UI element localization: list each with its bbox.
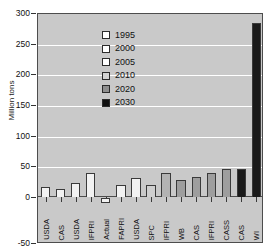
- x-tick-mark: [196, 197, 197, 202]
- legend: 199520002005201020202030: [102, 29, 135, 109]
- bar: [161, 173, 170, 198]
- x-tick-mark: [151, 197, 152, 202]
- x-tick-label: CAS: [192, 225, 202, 240]
- x-tick-label: USDA: [42, 219, 52, 240]
- bar: [252, 23, 261, 198]
- x-tick-mark: [241, 197, 242, 202]
- legend-label: 2000: [115, 44, 135, 53]
- y-tick-label: 300: [16, 9, 30, 17]
- legend-swatch-icon: [102, 45, 110, 53]
- legend-label: 2005: [115, 58, 135, 67]
- legend-item: 2000: [102, 43, 135, 56]
- legend-item: 2030: [102, 97, 135, 110]
- x-tick-mark: [181, 197, 182, 202]
- legend-swatch-icon: [102, 58, 110, 66]
- legend-swatch-icon: [102, 31, 110, 39]
- bar: [237, 169, 246, 198]
- x-tick-mark: [91, 197, 92, 202]
- x-tick-label: USDA: [72, 219, 82, 240]
- y-tick-label: -50: [18, 239, 30, 247]
- x-tick-mark: [61, 197, 62, 202]
- y-tick-label: 100: [16, 132, 30, 140]
- bar: [222, 169, 231, 198]
- bar: [146, 185, 155, 198]
- legend-swatch-icon: [102, 99, 110, 107]
- legend-label: 2010: [115, 71, 135, 80]
- x-tick-label: FAPRI: [117, 218, 127, 240]
- x-tick-label: IFPRI: [162, 221, 172, 240]
- x-tick-label: CASS: [222, 220, 232, 240]
- legend-label: 2030: [115, 98, 135, 107]
- y-tick-label: 50: [21, 162, 30, 170]
- y-tick-mark: [31, 74, 36, 75]
- legend-item: 2010: [102, 70, 135, 83]
- bar: [131, 178, 140, 198]
- y-tick-mark: [31, 105, 36, 106]
- y-tick-mark: [31, 243, 36, 244]
- bar: [101, 198, 110, 203]
- plot-area: 199520002005201020202030: [37, 13, 263, 197]
- bar: [176, 180, 185, 198]
- x-tick-mark: [121, 197, 122, 202]
- y-tick-mark: [31, 13, 36, 14]
- bar: [71, 183, 80, 198]
- x-tick-label: CAS: [237, 225, 247, 240]
- y-tick-mark: [31, 44, 36, 45]
- y-tick-label: 250: [16, 40, 30, 48]
- y-tick-mark: [31, 136, 36, 137]
- x-tick-mark: [76, 197, 77, 202]
- x-tick-mark: [166, 197, 167, 202]
- legend-swatch-icon: [102, 72, 110, 80]
- y-tick-label: 150: [16, 101, 30, 109]
- bar-series: [38, 14, 262, 196]
- x-tick-label: WB: [177, 228, 187, 240]
- legend-item: 2020: [102, 83, 135, 96]
- x-axis-label-band: USDACASUSDAIFPRIActualFAPRIUSDASPCIFPRIW…: [37, 197, 263, 243]
- x-tick-mark: [46, 197, 47, 202]
- x-tick-label: IFPRI: [207, 221, 217, 240]
- bar: [86, 173, 95, 198]
- x-tick-label: Actual: [102, 219, 112, 240]
- x-tick-mark: [211, 197, 212, 202]
- legend-label: 1995: [115, 31, 135, 40]
- y-tick-mark: [31, 166, 36, 167]
- x-tick-label: IFPRI: [87, 221, 97, 240]
- legend-swatch-icon: [102, 85, 110, 93]
- legend-item: 2005: [102, 56, 135, 69]
- x-tick-mark: [136, 197, 137, 202]
- y-axis-tick-labels: 300250200150100500-50: [0, 0, 37, 248]
- legend-label: 2020: [115, 85, 135, 94]
- bar: [192, 177, 201, 198]
- bar-chart: Million tons 300250200150100500-50 19952…: [0, 0, 269, 248]
- x-tick-label: SPC: [147, 225, 157, 240]
- bar: [116, 185, 125, 198]
- x-tick-mark: [226, 197, 227, 202]
- y-tick-label: 200: [16, 70, 30, 78]
- legend-item: 1995: [102, 29, 135, 42]
- x-tick-label: USDA: [132, 219, 142, 240]
- y-tick-label: 0: [25, 193, 30, 201]
- bar: [207, 173, 216, 198]
- x-tick-label: WI: [252, 231, 262, 240]
- x-tick-label: CAS: [57, 225, 67, 240]
- x-tick-mark: [256, 197, 257, 202]
- y-tick-mark: [31, 197, 36, 198]
